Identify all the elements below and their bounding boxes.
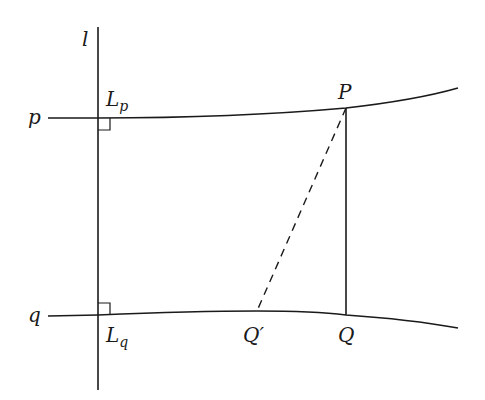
label-lq-main: L <box>105 323 119 347</box>
label-q-prime: Q′ <box>243 323 264 347</box>
label-p: p <box>28 105 41 129</box>
label-lp: Lp <box>105 87 128 114</box>
label-lq-sub: q <box>119 334 128 350</box>
geometry-diagram: l p q Lp Lq P Q′ Q <box>0 0 485 400</box>
label-p-point: P <box>337 80 352 104</box>
right-angle-marker-lq <box>98 303 110 315</box>
label-lq: Lq <box>105 323 128 350</box>
segment-pq-prime-dashed <box>257 108 346 311</box>
right-angle-marker-lp <box>98 118 110 130</box>
label-q-point: Q <box>338 323 354 347</box>
label-l: l <box>82 27 88 51</box>
label-q: q <box>28 303 41 327</box>
label-lp-sub: p <box>119 98 128 114</box>
label-lp-main: L <box>105 87 119 111</box>
